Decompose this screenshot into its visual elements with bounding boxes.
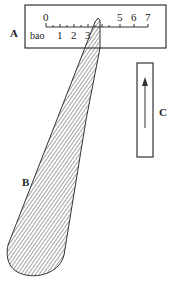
tick-label-7: 7	[145, 11, 151, 23]
label-c: C	[159, 106, 167, 118]
diagram: 0 5 6 7 bao 1 2 3 A B C	[0, 0, 174, 284]
label-a: A	[10, 27, 18, 39]
arrowhead-icon	[142, 77, 148, 86]
label-b: B	[22, 176, 30, 188]
tick-label-0: 0	[43, 11, 49, 23]
box-c	[137, 63, 153, 157]
pointer-b	[7, 18, 100, 276]
tick-label-5: 5	[117, 11, 123, 23]
tick-label-2: 2	[71, 29, 77, 41]
unit-label: bao	[30, 30, 44, 41]
tick-label-1: 1	[57, 29, 63, 41]
tick-label-6: 6	[131, 11, 137, 23]
